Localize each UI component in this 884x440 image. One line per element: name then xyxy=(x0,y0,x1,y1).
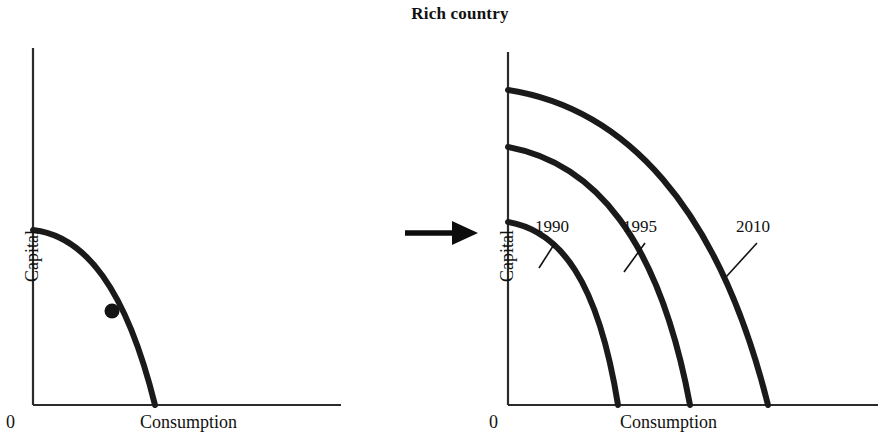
leader-line-2010 xyxy=(726,243,757,277)
left-x-axis-label: Consumption xyxy=(140,412,237,433)
leader-line-1990 xyxy=(539,243,555,268)
right-x-axis-label: Consumption xyxy=(620,412,717,433)
left-ppf-curve xyxy=(33,230,155,405)
right-origin-label: 0 xyxy=(489,412,498,433)
left-panel-group xyxy=(33,48,341,405)
ppf-curve-1990 xyxy=(508,222,618,405)
curve-label-2010: 2010 xyxy=(736,217,770,237)
curve-label-1995: 1995 xyxy=(623,217,657,237)
curve-label-1990: 1990 xyxy=(535,217,569,237)
figure-canvas: Rich country Capital 0 Consum xyxy=(0,0,884,440)
left-origin-label: 0 xyxy=(6,412,15,433)
production-point-marker xyxy=(105,304,120,319)
ppf-curve-1995 xyxy=(508,147,690,405)
right-arrow-icon xyxy=(405,221,478,245)
left-y-axis-label: Capital xyxy=(22,230,43,282)
right-y-axis-label: Capital xyxy=(497,230,518,282)
